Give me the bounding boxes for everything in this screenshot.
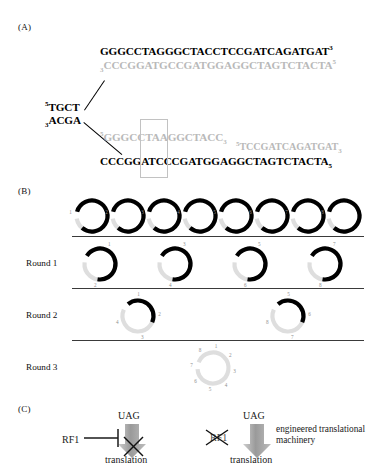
panel-c-graphics bbox=[0, 0, 381, 475]
arrow-down-left bbox=[118, 424, 146, 458]
arrow-down-right bbox=[243, 424, 271, 458]
rf1-inhibition-bar bbox=[84, 429, 118, 447]
figure-container: (A) GGGCCTAGGGCTACCTCCGATCAGATGAT3 3CCCG… bbox=[0, 0, 381, 475]
rf1-removed-x-icon bbox=[206, 430, 228, 445]
